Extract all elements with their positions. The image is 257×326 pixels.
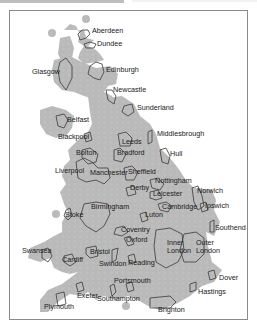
city-label-edinburgh: Edinburgh (106, 65, 139, 74)
city-label-london: London (196, 246, 220, 255)
city-label-dundee: Dundee (97, 39, 122, 48)
city-label-dover: Dover (219, 273, 239, 282)
city-label-belfast: Belfast (67, 115, 89, 124)
city-label-bristol: Bristol (90, 247, 110, 256)
city-label-aberdeen: Aberdeen (92, 26, 123, 35)
city-label-southend: Southend (215, 223, 246, 232)
city-label-norwich: Norwich (197, 186, 223, 195)
city-label-bolton: Bolton (76, 148, 96, 157)
city-label-coventry: Coventry (121, 225, 150, 234)
city-label-nottingham: Nottingham (155, 176, 192, 185)
city-label-cambridge: Cambridge (162, 202, 197, 211)
city-label-swansea: Swansea (22, 246, 52, 255)
city-label-exeter: Exeter (77, 291, 98, 300)
city-label-portsmouth: Portsmouth (114, 276, 151, 285)
city-label-manchester: Manchester (90, 168, 128, 177)
city-label-hull: Hull (170, 149, 183, 158)
city-label-southampton: Southampton (97, 294, 140, 303)
city-label-derby: Derby (130, 183, 150, 192)
city-label-sheffield: Sheffield (128, 167, 156, 176)
city-label-birmingham: Birmingham (91, 202, 129, 211)
city-label-leeds: Leeds (122, 137, 142, 146)
city-label-sunderland: Sunderland (137, 103, 174, 112)
city-label-reading: Reading (128, 258, 155, 267)
city-label-bradford: Bradford (117, 148, 145, 157)
city-label-newcastle: Newcastle (113, 85, 146, 94)
city-label-middlesbrough: Middlesbrough (157, 129, 204, 138)
city-label-london: London (167, 246, 191, 255)
city-label-liverpool: Liverpool (55, 166, 85, 175)
city-label-luton: Luton (145, 210, 163, 219)
city-label-leicester: Leicester (153, 189, 183, 198)
city-label-blackpool: Blackpool (58, 132, 90, 141)
city-label-ipswich: Ipswich (205, 201, 229, 210)
city-label-hastings: Hastings (198, 287, 226, 296)
uk-hex-cartogram: AberdeenDundeeGlasgowEdinburghNewcastleS… (0, 0, 257, 326)
city-label-oxford: Oxford (126, 235, 148, 244)
city-label-cardiff: Cardiff (62, 255, 83, 264)
city-label-glasgow: Glasgow (32, 67, 61, 76)
city-label-swindon: Swindon (99, 259, 127, 268)
city-label-brighton: Brighton (158, 305, 185, 314)
city-label-stoke: Stoke (65, 210, 83, 219)
city-label-plymouth: Plymouth (44, 302, 74, 311)
